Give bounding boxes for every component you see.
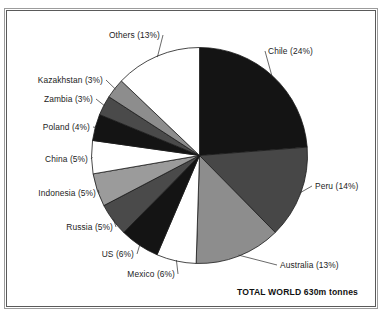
slice-label-china: China (5%) (45, 154, 88, 164)
slice-label-indonesia: Indonesia (5%) (38, 188, 96, 198)
slice-label-russia: Russia (5%) (66, 222, 113, 232)
leader-line-poland (93, 127, 96, 128)
pie-slice-chile[interactable] (200, 48, 308, 156)
slice-label-others: Others (13%) (109, 30, 160, 40)
slice-label-zambia: Zambia (3%) (44, 94, 93, 104)
slice-label-peru: Peru (14%) (315, 181, 358, 191)
slice-label-chile: Chile (24%) (268, 46, 313, 56)
leader-line-zambia (96, 99, 105, 106)
pie-chart: Chile (24%) Peru (14%) Australia (13%) M… (0, 0, 383, 315)
slice-label-mexico: Mexico (6%) (127, 269, 175, 279)
total-world-caption: TOTAL WORLD 630m tonnes (237, 287, 358, 297)
slice-label-kazakhstan: Kazakhstan (3%) (38, 75, 103, 85)
slice-label-us: US (6%) (102, 249, 134, 259)
slice-label-australia: Australia (13%) (280, 260, 339, 270)
leader-line-australia (239, 255, 278, 265)
pie-slice-group (92, 48, 308, 264)
leader-line-mexico (176, 260, 178, 274)
leader-line-kazakhstan (106, 80, 116, 89)
slice-label-poland: Poland (4%) (43, 122, 90, 132)
leader-line-us (137, 244, 140, 254)
